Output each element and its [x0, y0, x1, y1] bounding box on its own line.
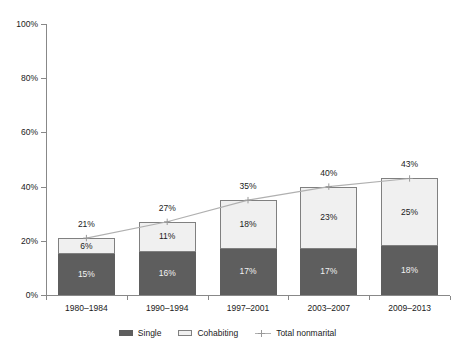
x-axis-tick: [288, 296, 289, 300]
bar-segment-label-cohabiting: 18%: [239, 220, 256, 229]
y-axis-tick-label: 40%: [21, 182, 38, 191]
stacked-bar-chart: 0%20%40%60%80%100% 6%15%21%11%16%27%18%1…: [0, 0, 455, 351]
bar-segment-label-single: 15%: [78, 270, 95, 279]
bar-segment-single[interactable]: 18%: [381, 246, 438, 295]
y-axis-tick: [41, 78, 46, 79]
x-axis-tick: [208, 296, 209, 300]
bar-group[interactable]: 18%17%: [220, 200, 277, 295]
chart-legend: SingleCohabitingTotal nonmarital: [0, 328, 455, 338]
y-axis-tick-label: 80%: [21, 74, 38, 83]
bar-segment-label-cohabiting: 6%: [80, 242, 92, 251]
x-axis-tick: [450, 296, 451, 300]
total-nonmarital-value-label: 40%: [299, 169, 359, 178]
x-axis-tick: [127, 296, 128, 300]
x-axis-tick-label: 2009–2013: [370, 303, 450, 313]
bar-segment-single[interactable]: 17%: [220, 249, 277, 295]
y-axis-tick: [41, 24, 46, 25]
total-nonmarital-value-label: 35%: [218, 182, 278, 191]
x-axis-tick: [46, 296, 47, 300]
line-marker-icon: [255, 330, 271, 337]
bar-group[interactable]: 23%17%: [300, 187, 357, 295]
total-nonmarital-value-label: 27%: [137, 204, 197, 213]
bar-segment-cohabiting[interactable]: 11%: [139, 222, 196, 252]
y-axis-tick-label: 0%: [26, 291, 38, 300]
bar-segment-single[interactable]: 17%: [300, 249, 357, 295]
y-axis-tick: [41, 241, 46, 242]
y-axis-tick-label: 100%: [16, 20, 38, 29]
legend-label: Cohabiting: [197, 328, 238, 338]
bar-group[interactable]: 6%15%: [58, 238, 115, 295]
bar-segment-label-cohabiting: 11%: [159, 232, 175, 241]
bar-segment-label-single: 16%: [159, 269, 176, 278]
y-axis-tick-label: 20%: [21, 236, 38, 245]
bar-segment-cohabiting[interactable]: 23%: [300, 187, 357, 249]
legend-item[interactable]: Cohabiting: [178, 328, 238, 338]
legend-item[interactable]: Single: [119, 328, 162, 338]
y-axis-tick-label: 60%: [21, 128, 38, 137]
bar-segment-label-single: 17%: [239, 267, 256, 276]
bar-segment-cohabiting[interactable]: 6%: [58, 238, 115, 254]
bar-group[interactable]: 11%16%: [139, 222, 196, 295]
total-nonmarital-value-label: 21%: [56, 220, 116, 229]
total-nonmarital-value-label: 43%: [380, 160, 440, 169]
y-axis-line: [46, 24, 47, 296]
x-axis-line: [46, 295, 450, 296]
bar-segment-single[interactable]: 16%: [139, 252, 196, 295]
bar-segment-cohabiting[interactable]: 25%: [381, 178, 438, 246]
bar-segment-label-cohabiting: 25%: [401, 208, 418, 217]
cohabiting-swatch-icon: [178, 330, 192, 336]
x-axis-tick-label: 2003–2007: [289, 303, 369, 313]
y-axis-tick: [41, 187, 46, 188]
legend-label: Total nonmarital: [276, 328, 336, 338]
x-axis-tick-label: 1980–1984: [46, 303, 126, 313]
bar-segment-cohabiting[interactable]: 18%: [220, 200, 277, 249]
x-axis-tick: [369, 296, 370, 300]
total-nonmarital-line: [0, 0, 455, 351]
x-axis-tick-label: 1990–1994: [127, 303, 207, 313]
legend-item[interactable]: Total nonmarital: [255, 328, 336, 338]
y-axis-tick: [41, 132, 46, 133]
bar-segment-label-single: 18%: [401, 266, 418, 275]
bar-segment-single[interactable]: 15%: [58, 254, 115, 295]
bar-segment-label-cohabiting: 23%: [320, 213, 337, 222]
bar-group[interactable]: 25%18%: [381, 178, 438, 295]
legend-label: Single: [138, 328, 162, 338]
bar-segment-label-single: 17%: [320, 267, 337, 276]
single-swatch-icon: [119, 330, 133, 336]
x-axis-tick-label: 1997–2001: [208, 303, 288, 313]
